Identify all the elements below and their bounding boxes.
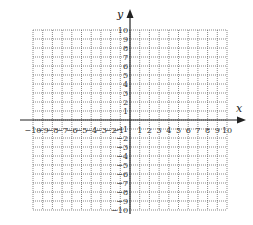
y-tick-label: 2: [123, 98, 128, 107]
y-tick-label: −7: [116, 179, 128, 188]
x-tick-label: 9: [215, 126, 220, 135]
y-tick-label: 7: [123, 53, 128, 62]
y-tick-label: 6: [123, 62, 128, 71]
x-tick-label: 10: [222, 126, 232, 135]
y-tick-label: −4: [116, 152, 128, 161]
y-tick-label: 4: [123, 80, 128, 89]
y-tick-label: −3: [116, 143, 128, 152]
y-tick-label: −2: [116, 134, 128, 143]
y-tick-label: −9: [116, 197, 128, 206]
y-axis-label: y: [116, 8, 124, 21]
y-tick-label: 3: [123, 89, 128, 98]
x-tick-labels: −10−9−8−7−6−5−4−3−2−112345678910: [25, 126, 233, 135]
x-tick-label: 5: [176, 126, 181, 135]
x-tick-label: 4: [166, 126, 171, 135]
y-tick-label: −8: [116, 188, 128, 197]
coordinate-plane: −10−9−8−7−6−5−4−3−2−112345678910 1098765…: [0, 0, 253, 225]
y-tick-label: 5: [123, 71, 128, 80]
x-tick-label: 7: [195, 126, 200, 135]
x-tick-label: 8: [205, 126, 210, 135]
y-tick-label: 9: [123, 35, 128, 44]
y-tick-label: −6: [116, 170, 128, 179]
x-tick-label: 2: [147, 126, 152, 135]
x-axis-label: x: [236, 102, 243, 115]
y-axis-arrow-icon: [127, 9, 134, 18]
y-tick-label: 1: [123, 107, 128, 116]
y-tick-label: −10: [111, 206, 128, 215]
y-tick-label: 8: [123, 44, 128, 53]
y-tick-label: 10: [118, 26, 128, 35]
x-tick-label: 1: [137, 126, 142, 135]
y-tick-label: −1: [116, 125, 128, 134]
y-tick-label: −5: [116, 161, 128, 170]
x-tick-label: 3: [157, 126, 162, 135]
x-tick-label: 6: [186, 126, 191, 135]
x-axis-arrow-icon: [237, 117, 246, 124]
